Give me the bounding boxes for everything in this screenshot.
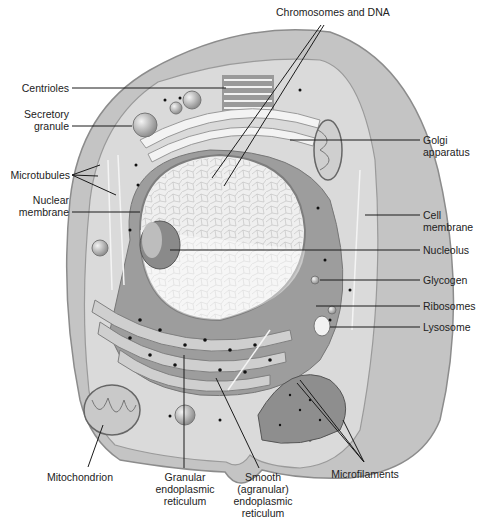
label-ribosomes: Ribosomes — [423, 300, 476, 312]
label-line: Golgi — [423, 134, 470, 146]
centrioles-shape — [222, 75, 274, 113]
label-line: apparatus — [423, 146, 470, 158]
label-golgi-apparatus: Golgi apparatus — [423, 134, 470, 158]
label-line: (agranular) — [228, 483, 298, 495]
label-line: granule — [14, 120, 69, 132]
label-line: reticulum — [228, 507, 298, 519]
label-line: endoplasmic — [150, 483, 220, 495]
label-centrioles: Centrioles — [14, 82, 69, 94]
label-line: membrane — [423, 221, 473, 233]
label-line: Cell — [423, 209, 473, 221]
label-microtubules: Microtubules — [2, 169, 70, 181]
cell-diagram: Chromosomes and DNA Centrioles Secretory… — [0, 0, 484, 523]
label-mitochondrion: Mitochondrion — [40, 471, 120, 483]
label-nuclear-membrane: Nuclear membrane — [14, 194, 69, 218]
label-line: Secretory — [14, 108, 69, 120]
label-secretory-granule: Secretory granule — [14, 108, 69, 132]
label-lysosome: Lysosome — [423, 321, 470, 333]
label-granular-er: Granular endoplasmic reticulum — [150, 471, 220, 507]
mitochondrion-top — [314, 120, 342, 180]
lysosome-shape — [314, 316, 330, 336]
label-line: reticulum — [150, 495, 220, 507]
label-line: endoplasmic — [228, 495, 298, 507]
label-nucleolus: Nucleolus — [423, 244, 469, 256]
label-line: Nuclear — [14, 194, 69, 206]
label-glycogen: Glycogen — [423, 274, 467, 286]
label-smooth-er: Smooth (agranular) endoplasmic reticulum — [228, 471, 298, 519]
label-line: Granular — [150, 471, 220, 483]
label-line: membrane — [14, 206, 69, 218]
label-microfilaments: Microfilaments — [330, 468, 400, 480]
mitochondrion-bottom — [84, 385, 140, 435]
label-chromosomes-and-dna: Chromosomes and DNA — [276, 6, 390, 18]
cell-illustration — [0, 0, 484, 523]
label-cell-membrane: Cell membrane — [423, 209, 473, 233]
label-line: Smooth — [228, 471, 298, 483]
